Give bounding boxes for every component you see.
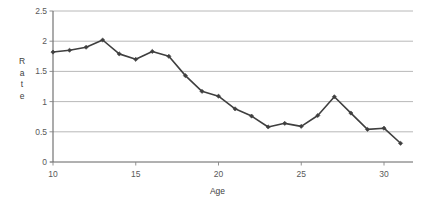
y-tick-label: 1.5 bbox=[18, 66, 47, 76]
x-tick-label: 25 bbox=[297, 169, 306, 179]
series-line bbox=[53, 40, 401, 143]
y-tick-label: 0 bbox=[18, 157, 47, 167]
data-point-marker bbox=[67, 48, 71, 52]
data-series-line bbox=[53, 40, 401, 143]
x-tick-label: 10 bbox=[48, 169, 57, 179]
y-axis-title: R a t e bbox=[14, 56, 30, 102]
x-tick-label: 20 bbox=[214, 169, 223, 179]
y-tick-label: 2.5 bbox=[18, 6, 47, 16]
y-tick-label: 0.5 bbox=[18, 127, 47, 137]
gridlines bbox=[53, 11, 413, 162]
line-chart: R a t e Age 00.511.522.51015202530 bbox=[0, 0, 435, 207]
data-point-marker bbox=[283, 121, 287, 125]
y-axis-title-letter: t bbox=[14, 79, 30, 91]
x-axis-title: Age bbox=[0, 186, 435, 196]
data-point-marker bbox=[51, 50, 55, 54]
x-tick-label: 15 bbox=[131, 169, 140, 179]
x-axis-ticks bbox=[53, 162, 384, 166]
x-tick-label: 30 bbox=[379, 169, 388, 179]
y-tick-label: 2 bbox=[18, 36, 47, 46]
data-point-markers bbox=[51, 38, 403, 145]
y-tick-label: 1 bbox=[18, 97, 47, 107]
